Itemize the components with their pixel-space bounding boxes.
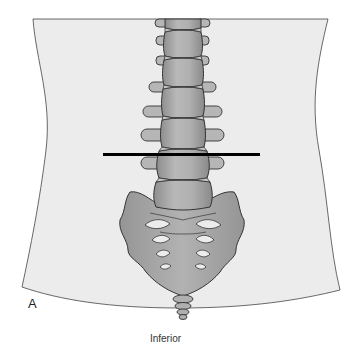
coccyx xyxy=(173,295,193,320)
panel-label: A xyxy=(28,296,37,311)
orientation-label-inferior: Inferior xyxy=(150,333,181,344)
spine-diagram xyxy=(0,0,359,344)
